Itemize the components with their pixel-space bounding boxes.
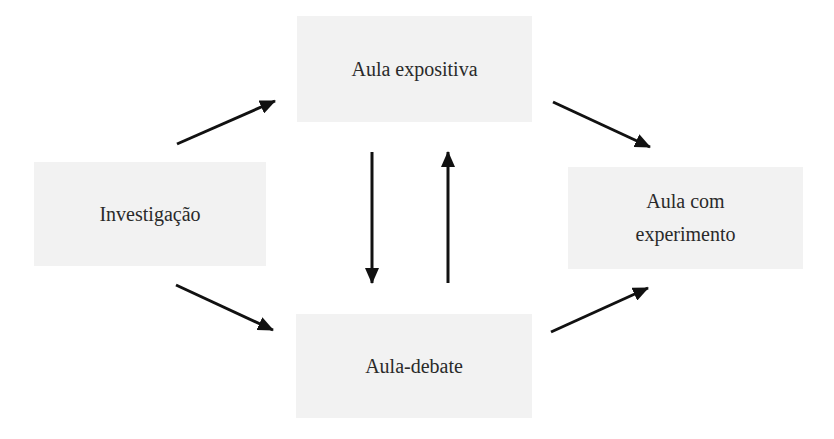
arrow-aula-debate-to-aula-com-experimento <box>551 288 648 332</box>
arrow-investigacao-to-aula-debate <box>176 285 273 330</box>
arrow-investigacao-to-aula-expositiva <box>177 101 275 144</box>
arrow-aula-expositiva-to-aula-com-experimento <box>553 102 650 147</box>
arrows-layer <box>0 0 834 439</box>
